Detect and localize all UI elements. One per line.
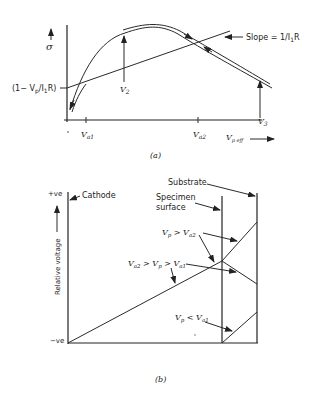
v3-label: V3 — [258, 117, 268, 127]
plus-ve-label: +ve — [48, 190, 62, 198]
load-line — [67, 31, 230, 88]
line-vp-gt-va2 — [222, 222, 257, 261]
specimen-label-line1: Specimen — [156, 193, 195, 202]
specimen-label-line2: surface — [156, 203, 186, 212]
condition-between: Va2 > Vp > Va1 — [128, 259, 186, 270]
va1-label: Va1 — [81, 130, 94, 140]
caption-b: (b) — [155, 375, 166, 384]
figure-a: σ (1− Vp/I1R) Slope = 1/I1R V2 V3 — [12, 25, 300, 161]
v2-label: V2 — [120, 85, 130, 95]
substrate-label: Substrate — [168, 178, 207, 187]
between-arrow-icon-2 — [171, 268, 175, 283]
intercept-label: (1− Vp/I1R) — [12, 84, 56, 95]
sigma-curve — [70, 27, 272, 110]
va2-label: Va2 — [193, 130, 206, 140]
vp-lt-va1-arrow-icon — [205, 322, 232, 331]
substrate-arrow-icon — [207, 184, 255, 196]
caption-a: (a) — [150, 151, 161, 160]
line-vp-lt-va1 — [222, 312, 257, 343]
x-axis-label: Vp eff — [226, 133, 245, 144]
cathode-label: Cathode — [82, 191, 116, 200]
condition-vp-gt-va2: Vp > Va2 — [162, 228, 196, 239]
stray-dot — [194, 334, 195, 335]
specimen-arrow-icon — [195, 203, 220, 210]
minus-ve-label: −ve — [50, 337, 64, 345]
slope-label: Slope = 1/I1R — [246, 33, 300, 43]
line-between — [222, 261, 257, 284]
sigma-label: σ — [46, 41, 54, 52]
figure-b: +ve −ve Relative voltage Cathode Substra… — [48, 178, 258, 384]
relative-voltage-label: Relative voltage — [54, 238, 62, 295]
vp-gt-va2-arrow-icon-2 — [199, 235, 214, 262]
diagram-canvas: σ (1− Vp/I1R) Slope = 1/I1R V2 V3 — [0, 0, 315, 394]
vp-gt-va2-arrow-icon-1 — [203, 233, 237, 241]
origin-dot — [67, 131, 69, 133]
main-potential-line — [68, 261, 222, 343]
condition-vp-lt-va1: Vp < Va1 — [175, 313, 209, 324]
cathode-arrow-icon — [70, 196, 80, 200]
